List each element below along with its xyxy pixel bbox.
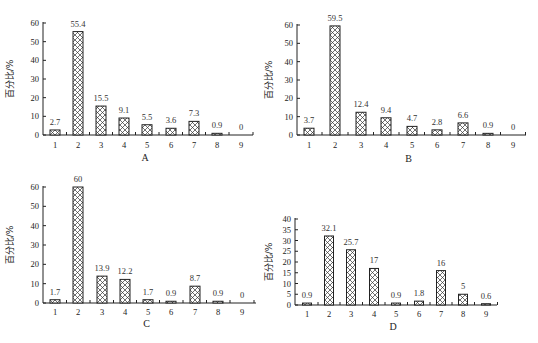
x-tick-label: 3 — [99, 140, 103, 150]
bar — [50, 300, 60, 303]
x-tick-label: 3 — [349, 309, 353, 319]
bar-value-label: 32.1 — [322, 223, 337, 233]
bar — [304, 128, 314, 135]
bar-value-label: 1.7 — [50, 287, 61, 297]
x-tick-label: 2 — [76, 140, 80, 150]
bar-value-label: 0.9 — [483, 120, 494, 130]
bar-value-label: 0.9 — [166, 288, 177, 298]
x-tick-label: 9 — [240, 307, 244, 317]
bar-value-label: 0.6 — [481, 291, 492, 301]
bar-value-label: 55.4 — [71, 19, 87, 29]
x-tick-label: 2 — [76, 307, 80, 317]
y-tick-label: 30 — [283, 236, 292, 246]
y-tick-label: 20 — [283, 257, 292, 267]
bar-value-label: 0 — [239, 122, 243, 132]
bar-value-label: 5 — [461, 281, 465, 291]
y-tick-label: 50 — [31, 37, 40, 47]
chart-panel-b: 01020304050603.7159.5212.439.444.752.866… — [263, 13, 526, 164]
bar — [370, 268, 379, 305]
bar — [166, 128, 176, 135]
x-tick-label: 1 — [53, 307, 57, 317]
bar — [119, 118, 129, 135]
bar-value-label: 4.7 — [407, 113, 418, 123]
y-tick-label: 15 — [283, 268, 292, 278]
x-tick-label: 6 — [417, 309, 421, 319]
chart-panel-c: 01020304050601.7160213.9312.241.750.968.… — [4, 174, 256, 329]
y-tick-label: 0 — [35, 130, 39, 140]
bar — [356, 112, 366, 135]
y-axis-label: 百分比/% — [263, 242, 274, 281]
y-tick-label: 35 — [283, 225, 292, 235]
bar-value-label: 1.7 — [143, 287, 154, 297]
bar-value-label: 16 — [437, 258, 446, 268]
x-tick-label: 5 — [410, 140, 414, 150]
chart-panel-d: 05101520253035400.9132.1225.731740.951.8… — [263, 214, 498, 332]
y-tick-label: 20 — [31, 259, 40, 269]
bar-value-label: 5.5 — [142, 112, 153, 122]
x-tick-label: 8 — [215, 140, 219, 150]
y-tick-label: 40 — [31, 55, 40, 65]
x-tick-label: 8 — [486, 140, 490, 150]
panel-label: C — [143, 318, 150, 329]
bar — [166, 301, 176, 303]
panel-label: D — [389, 321, 396, 332]
y-tick-label: 60 — [31, 182, 40, 192]
y-tick-label: 50 — [31, 201, 40, 211]
bar — [347, 250, 356, 305]
bar-value-label: 9.4 — [381, 105, 392, 115]
y-axis-label: 百分比/% — [263, 60, 274, 99]
y-tick-label: 0 — [289, 130, 293, 140]
x-tick-label: 6 — [169, 140, 173, 150]
x-tick-label: 6 — [169, 307, 173, 317]
y-tick-label: 30 — [31, 74, 40, 84]
bar — [73, 187, 83, 303]
bar — [120, 279, 130, 303]
x-tick-label: 4 — [123, 307, 128, 317]
bar — [459, 294, 468, 305]
x-tick-label: 5 — [145, 140, 149, 150]
x-tick-label: 8 — [216, 307, 220, 317]
bar-value-label: 3.7 — [304, 115, 315, 125]
bar — [330, 26, 340, 135]
bar-value-label: 15.5 — [94, 93, 109, 103]
x-tick-label: 1 — [53, 140, 57, 150]
bar — [458, 123, 468, 135]
x-tick-label: 2 — [327, 309, 331, 319]
bar-value-label: 13.9 — [95, 263, 110, 273]
bar-value-label: 0 — [511, 122, 515, 132]
bar — [96, 106, 106, 135]
bar-value-label: 12.2 — [118, 266, 133, 276]
bar — [73, 32, 83, 135]
bar — [437, 271, 446, 305]
y-tick-label: 50 — [285, 38, 294, 48]
x-tick-label: 9 — [239, 140, 243, 150]
y-tick-label: 40 — [283, 214, 292, 224]
x-tick-label: 4 — [122, 140, 127, 150]
y-tick-label: 10 — [31, 111, 40, 121]
chart-panel-a: 01020304050602.7155.4215.539.145.553.667… — [4, 18, 253, 163]
bar-value-label: 25.7 — [344, 237, 359, 247]
x-tick-label: 7 — [439, 309, 443, 319]
bar — [143, 300, 153, 303]
bar — [325, 236, 334, 305]
bar — [303, 303, 312, 305]
chart-figure: 01020304050602.7155.4215.539.145.553.667… — [0, 0, 538, 343]
bar-value-label: 0.9 — [212, 120, 223, 130]
y-tick-label: 0 — [287, 300, 291, 310]
y-tick-label: 10 — [283, 279, 292, 289]
bar-value-label: 0.9 — [391, 290, 402, 300]
x-tick-label: 1 — [307, 140, 311, 150]
y-tick-label: 10 — [285, 112, 294, 122]
bar — [142, 125, 152, 135]
bar-value-label: 2.8 — [432, 117, 443, 127]
bar-value-label: 8.7 — [190, 273, 201, 283]
bar — [415, 301, 424, 305]
bar-value-label: 7.3 — [189, 108, 200, 118]
bar — [212, 133, 222, 135]
y-tick-label: 5 — [287, 289, 291, 299]
bar — [97, 276, 107, 303]
x-tick-label: 5 — [146, 307, 150, 317]
x-tick-label: 3 — [100, 307, 104, 317]
bar-value-label: 17 — [370, 255, 379, 265]
x-tick-label: 2 — [333, 140, 337, 150]
